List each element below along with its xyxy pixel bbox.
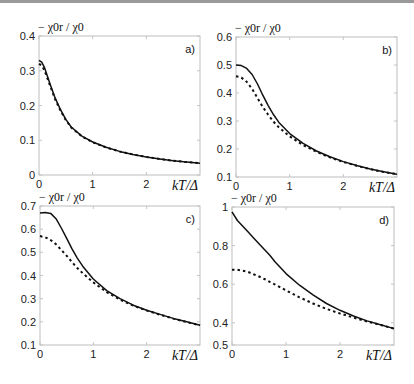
series-solid-line (232, 212, 394, 329)
panel-label: b) (382, 44, 392, 56)
x-tick-label: 2 (144, 348, 150, 360)
panel-label: c) (186, 213, 195, 225)
axes-frame (236, 37, 397, 177)
y-tick-label: 0.6 (21, 223, 36, 235)
y-tick-label: 0.5 (213, 339, 228, 351)
panel-a: 00.10.20.30.4012kT/Δ− χ0r / χ0a) (20, 20, 200, 193)
axes-frame (40, 206, 200, 345)
y-tick-label: 0.5 (21, 246, 36, 258)
panel-d: 0.50.40.60.81012kT/Δ− χ0r / χ0d) (213, 191, 394, 363)
panel-label: d) (379, 214, 389, 226)
y-tick-label: 0.4 (21, 270, 36, 282)
y-tick-label: 0.1 (20, 134, 35, 146)
y-tick-label: 0.2 (217, 143, 232, 155)
y-tick-label: 0.6 (217, 31, 232, 43)
x-tick-label: 2 (143, 178, 149, 190)
x-tick-label: 0 (37, 348, 43, 360)
axes-frame (39, 36, 200, 175)
figure-canvas: 00.10.20.30.4012kT/Δ− χ0r / χ0a) 0.10.20… (0, 0, 414, 384)
y-tick-label: 0.6 (213, 278, 228, 290)
y-tick-label: 0.7 (21, 200, 36, 212)
x-tick-label: 1 (283, 348, 289, 360)
y-tick-label: 0.3 (217, 115, 232, 127)
y-tick-label: 0.4 (213, 317, 228, 329)
x-tick-label: 0 (229, 348, 235, 360)
series-dashed-line (40, 236, 200, 325)
y-tick-label: 0.2 (21, 316, 36, 328)
panel-b: 0.10.20.30.40.50.6012kT/Δ− χ0r / χ0b) (217, 21, 397, 195)
x-tick-label: 2 (337, 348, 343, 360)
y-tick-label: 0.1 (21, 339, 36, 351)
series-solid-line (39, 60, 200, 163)
axes-frame (232, 207, 394, 345)
x-axis-label: kT/Δ (366, 348, 392, 363)
panel-c: 0.10.20.30.40.50.60.7012kT/Δ− χ0r / χ0c) (21, 190, 200, 363)
x-tick-label: 1 (90, 178, 96, 190)
panel-label: a) (185, 43, 195, 55)
y-tick-label: 0.3 (21, 293, 36, 305)
x-tick-label: 2 (340, 180, 346, 192)
x-axis-label: kT/Δ (172, 178, 198, 193)
y-tick-label: 0.3 (20, 65, 35, 77)
y-axis-label: − χ0r / χ0 (39, 190, 85, 204)
x-axis-label: kT/Δ (172, 348, 198, 363)
y-axis-label: − χ0r / χ0 (231, 191, 277, 205)
x-tick-label: 1 (90, 348, 96, 360)
series-dashed-line (39, 64, 200, 163)
y-tick-label: 1 (222, 201, 228, 213)
y-tick-label: 0.5 (217, 59, 232, 71)
series-solid-line (236, 65, 397, 174)
x-tick-label: 0 (36, 178, 42, 190)
y-tick-label: 0.2 (20, 100, 35, 112)
y-axis-label: − χ0r / χ0 (38, 20, 84, 34)
x-axis-label: kT/Δ (369, 180, 395, 195)
y-tick-label: 0.4 (20, 30, 35, 42)
y-tick-label: 0 (29, 169, 35, 181)
series-solid-line (40, 213, 200, 326)
y-tick-label: 0.1 (217, 171, 232, 183)
x-tick-label: 1 (287, 180, 293, 192)
y-tick-label: 0.8 (213, 240, 228, 252)
y-tick-label: 0.4 (217, 87, 232, 99)
y-axis-label: − χ0r / χ0 (235, 21, 281, 35)
series-dashed-line (232, 270, 394, 329)
